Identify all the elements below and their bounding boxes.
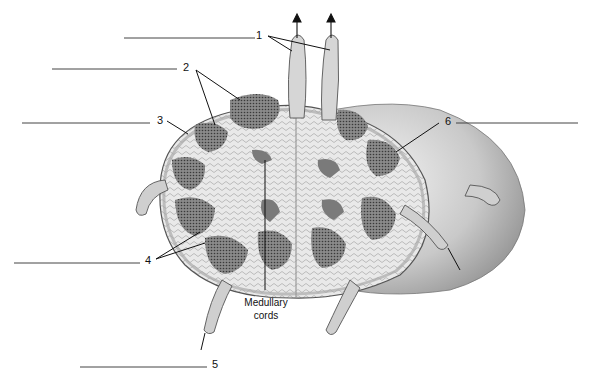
label-3: 3 [157, 115, 163, 126]
lymph-node-illustration [0, 0, 591, 383]
efferent-arrows [293, 14, 335, 38]
caption-line-2: cords [234, 310, 298, 323]
label-4: 4 [145, 255, 151, 266]
caption-line-1: Medullary [234, 297, 298, 310]
label-6: 6 [445, 116, 451, 127]
medullary-cords-caption: Medullary cords [234, 297, 298, 322]
lymph-node-diagram: 1 2 3 4 5 6 Medullary cords [0, 0, 591, 383]
label-5: 5 [212, 359, 218, 370]
label-2: 2 [183, 62, 189, 73]
label-1: 1 [256, 30, 262, 41]
